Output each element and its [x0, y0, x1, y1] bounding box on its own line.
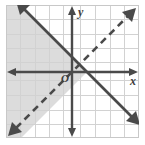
coordinate-plane-graph — [0, 0, 145, 145]
origin-label: O — [61, 73, 69, 84]
graph-figure: y x O — [0, 0, 145, 145]
y-axis-label: y — [78, 6, 83, 18]
x-axis-label: x — [130, 75, 136, 87]
